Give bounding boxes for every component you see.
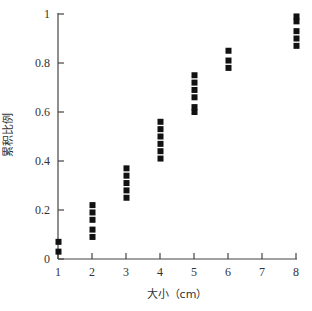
- y-axis-ticks: 00.20.40.60.81: [35, 7, 64, 266]
- data-point-marker: [90, 234, 96, 240]
- y-tick-label: 0.6: [35, 105, 50, 119]
- data-point-marker: [56, 249, 62, 255]
- x-axis-label: 大小（cm）: [147, 287, 208, 301]
- data-point-marker: [158, 119, 164, 125]
- x-tick-label: 6: [225, 265, 231, 279]
- x-axis-ticks: 12345678: [55, 253, 299, 279]
- x-tick-label: 3: [123, 265, 129, 279]
- data-point-marker: [90, 217, 96, 223]
- data-point-marker: [124, 173, 130, 179]
- data-point-marker: [158, 141, 164, 147]
- data-point-marker: [90, 202, 96, 208]
- scatter-chart: 00.20.40.60.81 12345678 大小（cm） 累积比例: [0, 0, 312, 311]
- data-point-marker: [158, 134, 164, 140]
- data-point-marker: [294, 28, 300, 34]
- data-point-marker: [56, 239, 62, 245]
- data-point-marker: [192, 72, 198, 78]
- data-point-marker: [124, 187, 130, 193]
- data-point-marker: [158, 156, 164, 162]
- data-point-marker: [192, 80, 198, 86]
- data-point-marker: [294, 36, 300, 42]
- data-point-marker: [226, 48, 232, 54]
- data-point-marker: [124, 180, 130, 186]
- data-point-marker: [294, 13, 300, 19]
- data-point-marker: [158, 148, 164, 154]
- y-tick-label: 1: [44, 7, 50, 21]
- y-tick-label: 0.8: [35, 56, 50, 70]
- x-tick-label: 7: [259, 265, 265, 279]
- data-point-marker: [192, 87, 198, 93]
- y-tick-label: 0.2: [35, 203, 50, 217]
- y-tick-label: 0: [44, 252, 50, 266]
- data-point-marker: [226, 65, 232, 71]
- data-point-marker: [192, 94, 198, 100]
- data-point-marker: [90, 227, 96, 233]
- data-point-marker: [226, 58, 232, 64]
- data-point-marker: [158, 126, 164, 132]
- y-tick-label: 0.4: [35, 154, 50, 168]
- x-tick-label: 1: [55, 265, 61, 279]
- x-tick-label: 4: [157, 265, 163, 279]
- data-point-marker: [124, 165, 130, 171]
- x-tick-label: 8: [293, 265, 299, 279]
- data-point-marker: [124, 195, 130, 201]
- x-tick-label: 5: [191, 265, 197, 279]
- data-point-marker: [192, 104, 198, 110]
- data-points: [56, 13, 300, 254]
- y-axis-label: 累积比例: [1, 113, 15, 157]
- data-point-marker: [90, 209, 96, 215]
- data-point-marker: [294, 43, 300, 49]
- x-tick-label: 2: [89, 265, 95, 279]
